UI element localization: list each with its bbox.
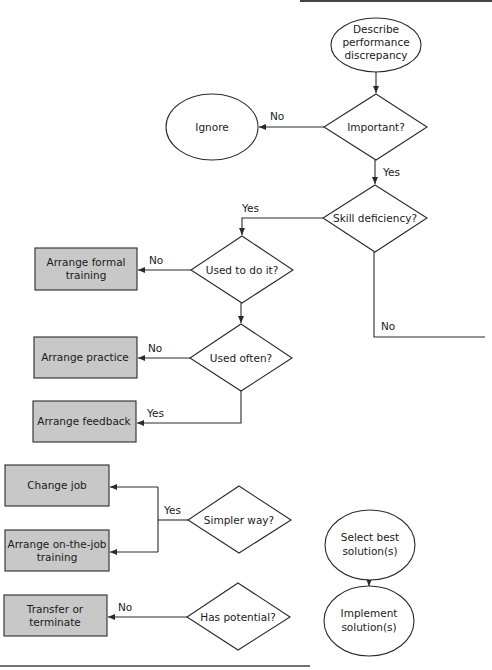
edge-label-usedoften-yes: Yes	[146, 407, 164, 419]
svg-text:Ignore: Ignore	[195, 121, 228, 133]
edge-label-usedoften-no: No	[148, 342, 162, 354]
svg-text:Arrange on-the-job: Arrange on-the-job	[7, 538, 106, 550]
svg-text:performance: performance	[342, 36, 409, 48]
node-select-best-solutions: Select best solution(s)	[325, 510, 415, 580]
edge-label-simpler-yes: Yes	[163, 504, 181, 516]
edge-label-important-yes: Yes	[382, 166, 400, 178]
svg-text:Arrange feedback: Arrange feedback	[37, 415, 131, 427]
svg-text:training: training	[66, 269, 107, 281]
edge-skill-usedto	[242, 218, 323, 235]
svg-text:Change job: Change job	[27, 479, 87, 491]
svg-text:Important?: Important?	[347, 121, 405, 133]
svg-text:solution(s): solution(s)	[342, 545, 397, 557]
decision-used-to-do-it: Used to do it?	[191, 236, 293, 303]
svg-text:Select best: Select best	[341, 531, 399, 543]
svg-text:Simpler way?: Simpler way?	[204, 514, 274, 526]
svg-text:Implement: Implement	[341, 607, 398, 619]
decision-used-often: Used often?	[190, 324, 292, 391]
node-implement-solutions: Implement solution(s)	[324, 586, 414, 656]
decision-important: Important?	[324, 94, 427, 160]
svg-text:Used often?: Used often?	[210, 352, 272, 364]
action-arrange-practice: Arrange practice	[34, 337, 137, 378]
svg-text:Skill deficiency?: Skill deficiency?	[333, 212, 417, 224]
action-arrange-feedback: Arrange feedback	[33, 401, 136, 442]
svg-text:Arrange formal: Arrange formal	[46, 256, 125, 268]
decision-has-potential: Has potential?	[187, 583, 290, 650]
decision-skill-deficiency: Skill deficiency?	[323, 185, 427, 252]
action-transfer-or-terminate: Transfer or terminate	[4, 595, 107, 636]
svg-text:training: training	[37, 551, 78, 563]
action-arrange-on-the-job-training: Arrange on-the-job training	[5, 530, 109, 571]
edge-label-potential-no: No	[118, 601, 132, 613]
edge-label-skill-no: No	[381, 320, 395, 332]
decision-simpler-way: Simpler way?	[188, 486, 291, 553]
node-ignore: Ignore	[166, 94, 258, 160]
svg-text:Transfer or: Transfer or	[26, 603, 84, 615]
svg-text:solution(s): solution(s)	[341, 621, 396, 633]
svg-text:Used to do it?: Used to do it?	[206, 264, 279, 276]
svg-text:Describe: Describe	[353, 23, 399, 35]
svg-text:Arrange practice: Arrange practice	[41, 351, 129, 363]
svg-text:discrepancy: discrepancy	[344, 49, 407, 61]
flowchart-canvas: No Yes Yes No No No Yes Yes No Describe …	[0, 0, 492, 670]
node-describe-discrepancy: Describe performance discrepancy	[331, 18, 421, 72]
edge-label-important-no: No	[270, 110, 284, 122]
edge-label-usedto-no: No	[149, 254, 163, 266]
edge-label-skill-yes: Yes	[241, 202, 259, 214]
action-change-job: Change job	[5, 465, 109, 506]
svg-text:Has potential?: Has potential?	[200, 611, 275, 623]
svg-text:terminate: terminate	[29, 616, 81, 628]
action-arrange-formal-training: Arrange formal training	[35, 248, 137, 290]
